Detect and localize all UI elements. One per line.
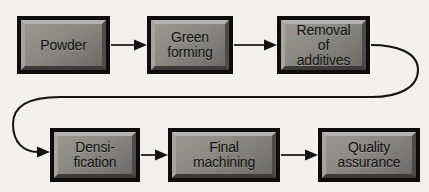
process-node-label: Quality assurance <box>338 140 401 170</box>
arrowhead-icon <box>264 40 277 51</box>
node-bevel-frame: Powder <box>21 20 106 70</box>
connector-machining-to-quality <box>281 150 318 161</box>
process-node-label: Powder <box>40 38 86 53</box>
process-node-removal-additives[interactable]: Removal of additives <box>277 16 370 74</box>
arrowhead-icon <box>155 150 168 161</box>
connector-powder-to-green <box>111 40 147 51</box>
process-flow-diagram: Powder Green forming Removal of additive… <box>0 0 429 192</box>
process-node-powder[interactable]: Powder <box>17 16 110 74</box>
process-node-label: Final machining <box>193 140 255 170</box>
arrowhead-icon <box>37 147 50 158</box>
connector-densification-to-machining <box>141 150 168 161</box>
arrowhead-icon <box>134 40 147 51</box>
process-node-green-forming[interactable]: Green forming <box>147 16 233 74</box>
process-node-label: Removal of additives <box>297 23 351 68</box>
process-node-label: Densi- fication <box>74 140 117 170</box>
process-node-label: Green forming <box>167 30 212 60</box>
connector-green-to-removal <box>234 40 277 51</box>
process-node-densification[interactable]: Densi- fication <box>50 128 140 182</box>
node-bevel-frame: Green forming <box>151 20 229 70</box>
node-bevel-frame: Removal of additives <box>281 20 366 70</box>
node-bevel-frame: Quality assurance <box>322 132 416 178</box>
process-node-quality-assurance[interactable]: Quality assurance <box>318 128 420 182</box>
node-bevel-frame: Densi- fication <box>54 132 136 178</box>
process-node-final-machining[interactable]: Final machining <box>168 128 280 182</box>
node-bevel-frame: Final machining <box>172 132 276 178</box>
arrowhead-icon <box>305 150 318 161</box>
